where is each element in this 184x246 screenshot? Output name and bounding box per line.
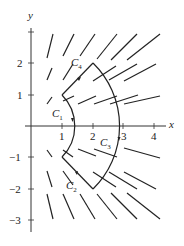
y-tick-neg3: −3	[9, 215, 21, 226]
label-c3: C3	[100, 137, 111, 151]
y-tick-neg2: −2	[9, 184, 21, 195]
label-c2: C2	[66, 180, 77, 194]
x-tick-2: 2	[90, 131, 96, 142]
y-axis-label: y	[28, 10, 33, 21]
label-c4: C4	[71, 57, 82, 71]
diagram-canvas	[0, 0, 184, 246]
x-tick-1: 1	[59, 131, 65, 142]
axes	[25, 28, 166, 232]
x-axis-label: x	[169, 119, 174, 130]
y-tick-2: 2	[17, 58, 23, 69]
x-tick-3: 3	[121, 131, 127, 142]
y-tick-1: 1	[17, 90, 23, 101]
x-tick-4: 4	[151, 131, 157, 142]
y-tick-neg1: −1	[9, 152, 21, 163]
label-c1: C1	[52, 108, 63, 122]
